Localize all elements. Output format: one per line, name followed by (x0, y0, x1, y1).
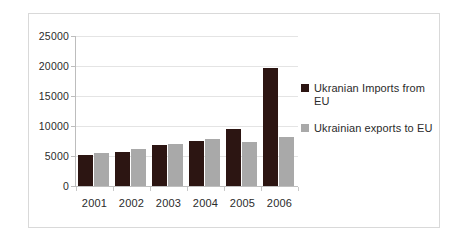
y-axis-tick-mark (71, 96, 76, 97)
y-axis-tick-label: 0 (25, 181, 69, 191)
legend-item[interactable]: Ukrainian exports to EU (301, 122, 441, 135)
x-axis-tick-mark (261, 187, 262, 191)
legend-swatch-exports-icon (301, 124, 309, 132)
legend-item[interactable]: Ukranian Imports from EU (301, 82, 441, 108)
y-axis-tick-mark (71, 156, 76, 157)
plot-area (76, 36, 298, 186)
bar-imports[interactable] (78, 155, 93, 186)
x-axis-tick-mark (76, 187, 77, 191)
x-axis-tick-mark (224, 187, 225, 191)
x-axis-tick-mark (150, 187, 151, 191)
y-axis-tick-label: 5000 (25, 151, 69, 161)
y-axis-tick-label: 10000 (25, 121, 69, 131)
bar-group (113, 36, 150, 186)
bar-group (261, 36, 298, 186)
y-axis-tick-label: 15000 (25, 91, 69, 101)
y-axis-tick-label: 25000 (25, 31, 69, 41)
legend-item-label: Ukrainian exports to EU (314, 122, 432, 135)
chart-container: 0500010000150002000025000 20012002200320… (28, 13, 440, 228)
bar-exports[interactable] (94, 153, 109, 186)
bar-imports[interactable] (263, 68, 278, 186)
y-axis-tick-label: 20000 (25, 61, 69, 71)
x-axis-tick-mark (298, 187, 299, 191)
bar-exports[interactable] (168, 144, 183, 186)
x-axis-tick-mark (113, 187, 114, 191)
bar-group (187, 36, 224, 186)
bar-exports[interactable] (205, 139, 220, 186)
y-axis-tick-labels: 0500010000150002000025000 (29, 14, 69, 227)
bar-group (150, 36, 187, 186)
bar-exports[interactable] (131, 149, 146, 186)
bar-imports[interactable] (226, 129, 241, 186)
bar-exports[interactable] (279, 137, 294, 186)
x-axis-tick-labels: 200120022003200420052006 (76, 187, 298, 217)
y-axis-tick-mark (71, 126, 76, 127)
x-axis-tick-mark (187, 187, 188, 191)
bar-imports[interactable] (115, 152, 130, 186)
legend-item-label: Ukranian Imports from EU (314, 82, 441, 108)
bar-group (76, 36, 113, 186)
chart-legend: Ukranian Imports from EUUkrainian export… (301, 82, 441, 149)
bar-exports[interactable] (242, 142, 257, 186)
bar-imports[interactable] (152, 145, 167, 186)
y-axis-tick-mark (71, 66, 76, 67)
bar-group (224, 36, 261, 186)
y-axis-tick-mark (71, 186, 76, 187)
y-axis-tick-mark (71, 36, 76, 37)
bar-imports[interactable] (189, 141, 204, 186)
legend-swatch-imports-icon (301, 84, 309, 92)
x-axis-tick-label: 2006 (258, 197, 302, 209)
